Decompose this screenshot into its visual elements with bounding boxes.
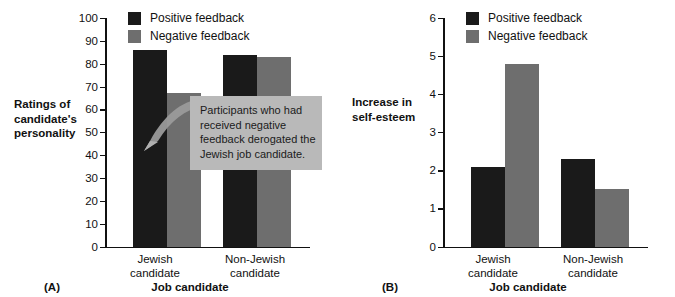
y-tick-mark (438, 18, 443, 19)
x-axis-line (105, 247, 310, 249)
panel-letter-b: (B) (382, 281, 398, 293)
plot-area-b: 0123456 (443, 18, 648, 248)
cat-line: Jewish (453, 252, 533, 266)
y-tick-label: 50 (85, 126, 98, 138)
y-tick-label: 5 (430, 50, 436, 62)
x-axis-line (443, 247, 648, 249)
callout-line: received negative (200, 118, 313, 133)
y-tick-label: 10 (85, 218, 98, 230)
y-tick-mark (438, 56, 443, 57)
y-tick-label: 1 (430, 202, 436, 214)
callout-line: Participants who had (200, 103, 313, 118)
y-tick-mark (438, 170, 443, 171)
figure-bar-charts: Positive feedback Negative feedback Rati… (0, 0, 675, 297)
y-tick-label: 80 (85, 58, 98, 70)
y-tick-label: 0 (430, 241, 436, 253)
y-tick-label: 2 (430, 164, 436, 176)
y-tick-mark (100, 201, 105, 202)
x-category-label-nonjewish-a: Non-Jewish candidate (215, 252, 295, 281)
y-tick-label: 100 (79, 12, 98, 24)
y-axis-title-b: Increase in self-esteem (352, 95, 430, 124)
y-tick-mark (100, 224, 105, 225)
cat-line: candidate (553, 266, 633, 280)
cat-line: Jewish (115, 252, 195, 266)
y-tick-label: 4 (430, 88, 436, 100)
bar-positive (561, 159, 595, 247)
panel-b: Positive feedback Negative feedback 0123… (338, 0, 675, 297)
bar-negative (595, 189, 629, 246)
y-tick-label: 20 (85, 195, 98, 207)
panel-a: Positive feedback Negative feedback Rati… (0, 0, 337, 297)
y-tick-mark (100, 247, 105, 248)
y-tick-mark (100, 178, 105, 179)
y-tick-mark (100, 155, 105, 156)
y-tick-label: 60 (85, 103, 98, 115)
y-tick-label: 3 (430, 126, 436, 138)
y-tick-mark (438, 208, 443, 209)
x-category-label-jewish-a: Jewish candidate (115, 252, 195, 281)
y-axis-line (105, 18, 107, 248)
y-tick-label: 6 (430, 12, 436, 24)
callout-line: Jewish job candidate. (200, 147, 313, 162)
y-tick-mark (100, 132, 105, 133)
x-category-label-jewish-b: Jewish candidate (453, 252, 533, 281)
y-tick-label: 70 (85, 81, 98, 93)
y-tick-label: 30 (85, 172, 98, 184)
cat-line: candidate (453, 266, 533, 280)
bar-positive (133, 50, 167, 247)
y-tick-label: 90 (85, 35, 98, 47)
callout-line: feedback derogated the (200, 132, 313, 147)
y-axis-title-line: Increase in (352, 95, 430, 110)
callout-box-a: Participants who had received negative f… (190, 96, 322, 170)
x-axis-title-b: Job candidate (448, 281, 608, 293)
y-tick-mark (100, 109, 105, 110)
y-tick-mark (438, 132, 443, 133)
y-tick-label: 40 (85, 149, 98, 161)
cat-line: candidate (215, 266, 295, 280)
y-tick-mark (100, 18, 105, 19)
x-axis-title-a: Job candidate (110, 281, 270, 293)
y-tick-mark (100, 64, 105, 65)
panel-letter-a: (A) (44, 281, 60, 293)
y-axis-title-line: self-esteem (352, 110, 430, 125)
x-category-label-nonjewish-b: Non-Jewish candidate (553, 252, 633, 281)
y-axis-line (443, 18, 445, 248)
bar-negative (505, 64, 539, 247)
cat-line: Non-Jewish (553, 252, 633, 266)
y-tick-mark (438, 94, 443, 95)
cat-line: candidate (115, 266, 195, 280)
bar-positive (471, 167, 505, 247)
y-tick-mark (100, 87, 105, 88)
cat-line: Non-Jewish (215, 252, 295, 266)
y-tick-mark (100, 41, 105, 42)
y-tick-mark (438, 247, 443, 248)
y-tick-label: 0 (92, 241, 98, 253)
